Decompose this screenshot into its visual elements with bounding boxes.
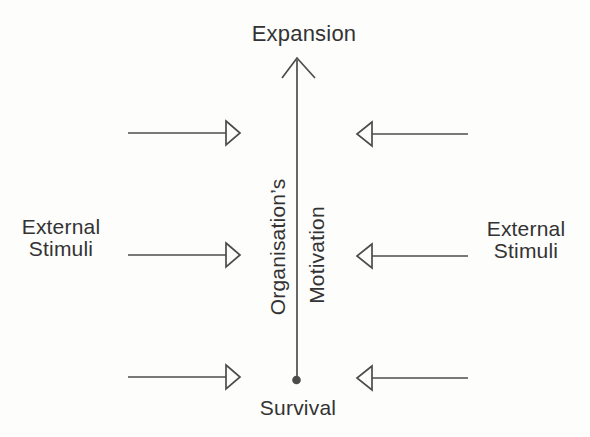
external-stimuli-right-line2: Stimuli: [487, 240, 566, 262]
survival-label: Survival: [260, 397, 336, 419]
external-stimuli-right-label: External Stimuli: [487, 218, 566, 262]
up-arrow-icon: [282, 58, 315, 78]
left-arrow-icon: [357, 366, 372, 390]
left-arrow-icon: [357, 244, 372, 268]
right-arrow-icon: [226, 121, 240, 145]
left-stimulus-arrow-1: [128, 121, 240, 145]
organisations-label: Organisation’s: [267, 179, 289, 316]
right-stimulus-arrow-1: [357, 122, 468, 146]
motivation-label: Motivation: [306, 206, 328, 304]
expansion-label: Expansion: [252, 23, 357, 45]
right-stimulus-arrow-3: [357, 366, 468, 390]
right-arrow-icon: [226, 365, 240, 389]
external-stimuli-right-line1: External: [487, 218, 566, 240]
external-stimuli-left-line2: Stimuli: [22, 238, 101, 260]
right-stimulus-arrow-2: [357, 244, 468, 268]
external-stimuli-left-line1: External: [22, 216, 101, 238]
motivation-diagram: Expansion Survival Organisation’s Motiva…: [0, 0, 590, 437]
external-stimuli-left-label: External Stimuli: [22, 216, 101, 260]
axis-origin-dot: [292, 376, 301, 385]
left-stimulus-arrow-3: [128, 365, 240, 389]
right-arrow-icon: [226, 243, 240, 267]
left-arrow-icon: [357, 122, 372, 146]
left-stimulus-arrow-2: [128, 243, 240, 267]
